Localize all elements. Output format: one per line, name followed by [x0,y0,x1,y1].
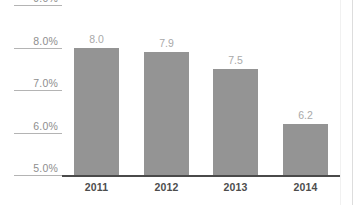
bar-value-2012: 7.9 [132,37,201,49]
y-axis-tick-rule-7 [14,90,62,91]
bar-chart: 9.0% 8.0% 7.0% 6.0% 5.0% 8.0 7.9 7.5 6.2 [0,0,361,205]
y-axis-tick-label-6: 6.0% [33,120,58,132]
y-axis-tick-label-8: 8.0% [33,35,58,47]
y-axis-tick-6: 6.0% [4,118,62,134]
bar-value-2014: 6.2 [271,109,340,121]
y-axis-tick-label-5: 5.0% [33,162,58,174]
x-axis-label-2014: 2014 [271,181,340,193]
bar-2013 [213,69,258,175]
y-axis-tick-rule-8 [14,48,62,49]
x-axis-line [62,175,340,177]
bar-2011 [74,48,119,175]
x-axis-label-2012: 2012 [132,181,201,193]
y-axis-tick-8: 8.0% [4,33,62,49]
y-axis-tick-7: 7.0% [4,75,62,91]
y-axis-tick-rule-9 [14,5,62,6]
y-axis-tick-rule-6 [14,133,62,134]
plot-area: 8.0 7.9 7.5 6.2 2011 2012 2013 2014 [62,0,340,205]
bar-value-2011: 8.0 [62,33,131,45]
bar-2012 [144,52,189,175]
x-axis-label-2013: 2013 [201,181,270,193]
panel-edge-inner [340,0,341,205]
y-axis-tick-9: 9.0% [4,0,62,6]
bar-value-2013: 7.5 [201,54,270,66]
y-axis: 9.0% 8.0% 7.0% 6.0% 5.0% [0,0,62,205]
y-axis-tick-label-7: 7.0% [33,77,58,89]
bar-2014 [283,124,328,175]
y-axis-tick-5: 5.0% [4,160,62,176]
panel-edge-outer [352,0,353,205]
x-axis-label-2011: 2011 [62,181,131,193]
y-axis-tick-label-9: 9.0% [33,0,58,4]
y-axis-tick-rule-5 [14,175,62,176]
